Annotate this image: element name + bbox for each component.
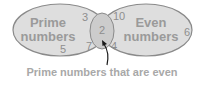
- annotation-caption: Prime numbers that are even: [0, 66, 204, 78]
- even-member-10: 10: [113, 10, 125, 22]
- intersection-member-2: 2: [99, 24, 105, 36]
- even-label-line2: numbers: [124, 29, 179, 44]
- prime-label-line2: numbers: [21, 29, 76, 44]
- prime-member-3: 3: [82, 11, 88, 23]
- prime-label-line1: Prime: [30, 15, 66, 30]
- even-member-4: 4: [111, 40, 117, 52]
- prime-member-7: 7: [86, 40, 92, 52]
- prime-member-5: 5: [60, 43, 66, 55]
- even-member-6: 6: [184, 26, 190, 38]
- even-label-line1: Even: [135, 15, 166, 30]
